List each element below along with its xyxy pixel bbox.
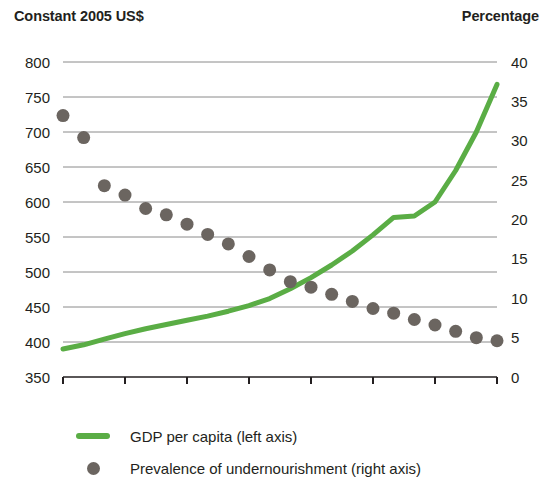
y-axis-tick-label: 500: [25, 264, 50, 281]
legend-item-undernourishment: Prevalence of undernourishment (right ax…: [0, 452, 549, 484]
data-point: [325, 288, 338, 301]
chart-canvas: 3504004505005506006507007508000510152025…: [0, 40, 549, 385]
y-axis-tick-label: 550: [25, 229, 50, 246]
chart-figure: Constant 2005 US$ Percentage 35040045050…: [0, 0, 549, 496]
y-axis-tick-label: 450: [25, 299, 50, 316]
y2-axis-tick-label: 0: [511, 369, 519, 386]
data-point: [367, 302, 380, 315]
y2-axis-tick-label: 30: [511, 132, 528, 149]
data-point: [263, 263, 276, 276]
series-points-undernourishment: [57, 109, 504, 347]
line-swatch-icon: [72, 433, 114, 439]
chart-legend: GDP per capita (left axis) Prevalence of…: [0, 420, 549, 484]
y2-axis-tick-label: 40: [511, 54, 528, 71]
plot-area: 3504004505005506006507007508000510152025…: [0, 40, 549, 385]
data-point: [387, 307, 400, 320]
data-point: [346, 295, 359, 308]
data-point: [491, 334, 504, 347]
right-axis-title: Percentage: [462, 8, 539, 24]
y-axis-tick-label: 650: [25, 159, 50, 176]
y2-axis-tick-label: 25: [511, 172, 528, 189]
legend-label-gdp: GDP per capita (left axis): [114, 428, 297, 445]
dot-swatch-icon: [72, 462, 114, 475]
y2-axis-tick-label: 20: [511, 211, 528, 228]
y-axis-tick-label: 400: [25, 334, 50, 351]
y-axis-tick-label: 600: [25, 194, 50, 211]
legend-item-gdp: GDP per capita (left axis): [0, 420, 549, 452]
data-point: [470, 331, 483, 344]
data-point: [429, 319, 442, 332]
data-point: [57, 109, 70, 122]
data-point: [305, 281, 318, 294]
data-point: [119, 189, 132, 202]
data-point: [284, 275, 297, 288]
y2-axis-tick-label: 10: [511, 290, 528, 307]
data-point: [222, 237, 235, 250]
y-axis-tick-label: 800: [25, 54, 50, 71]
y2-axis-tick-label: 35: [511, 93, 528, 110]
data-point: [139, 202, 152, 215]
data-point: [408, 313, 421, 326]
data-point: [181, 218, 194, 231]
data-point: [201, 228, 214, 241]
y-axis-tick-label: 750: [25, 89, 50, 106]
data-point: [160, 208, 173, 221]
data-point: [243, 250, 256, 263]
legend-label-undernourishment: Prevalence of undernourishment (right ax…: [114, 460, 421, 477]
y2-axis-tick-label: 5: [511, 329, 519, 346]
y2-axis-tick-label: 15: [511, 250, 528, 267]
y-axis-tick-label: 350: [25, 369, 50, 386]
left-axis-title: Constant 2005 US$: [14, 8, 144, 24]
data-point: [449, 325, 462, 338]
y-axis-tick-label: 700: [25, 124, 50, 141]
data-point: [77, 131, 90, 144]
series-line-gdp-per-capita: [63, 84, 497, 349]
data-point: [98, 179, 111, 192]
